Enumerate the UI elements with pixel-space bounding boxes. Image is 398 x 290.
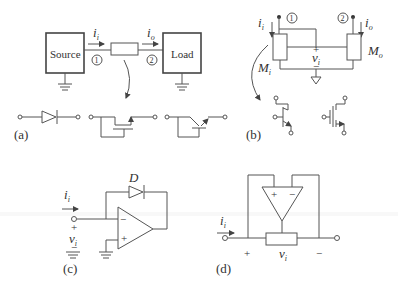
bjt-device [165,115,227,137]
panel-b: 1 2 ii io + vi − Mi Mo [246,13,383,142]
diode-icon [42,111,56,123]
svg-text:1: 1 [95,56,99,65]
svg-text:ii: ii [93,25,99,42]
diode-device [18,110,80,124]
scan-band [0,212,398,216]
bjt-symbol [273,96,293,135]
mosfet-device [89,115,157,137]
expansion-arrow-icon [124,60,130,98]
svg-text:Mi: Mi [257,60,271,77]
panel-c: ii + vi − D − + (c) [62,170,167,276]
two-port-element [266,233,297,245]
load-label: Load [171,48,194,60]
svg-text:−: − [120,213,126,225]
diode-label: D [128,170,139,185]
svg-text:+: + [121,232,127,244]
svg-text:−: − [289,188,295,200]
svg-text:−: − [313,60,319,72]
ground-icon [311,77,321,84]
svg-text:1: 1 [290,14,294,23]
svg-text:ii: ii [258,15,264,32]
input-terminal [223,236,228,241]
svg-text:2: 2 [341,14,345,23]
svg-text:−: − [316,247,322,259]
svg-text:+: + [271,188,277,200]
svg-text:ii: ii [64,187,70,204]
svg-text:2: 2 [150,56,154,65]
two-port-element [111,43,138,55]
panel-a-label: (a) [14,127,28,142]
panel-c-label: (c) [63,261,77,276]
output-terminal [335,236,340,241]
panel-b-label: (b) [246,127,261,142]
mi-element [273,34,287,60]
mosfet-symbol [322,96,347,135]
svg-text:io: io [147,25,155,42]
svg-text:vi: vi [279,246,287,263]
source-label: Source [50,48,81,60]
mo-element [347,34,361,60]
svg-text:Mo: Mo [367,43,383,60]
circuit-diagram: Source ii 1 io 2 Load [0,0,398,290]
diode-icon [129,186,143,198]
panel-d: + − ii + vi − (d) [216,175,340,276]
svg-text:−: − [71,241,77,253]
svg-text:io: io [365,15,373,32]
panel-a: Source ii 1 io 2 Load [14,25,227,142]
panel-d-label: (d) [216,261,231,276]
svg-text:+: + [244,247,250,259]
